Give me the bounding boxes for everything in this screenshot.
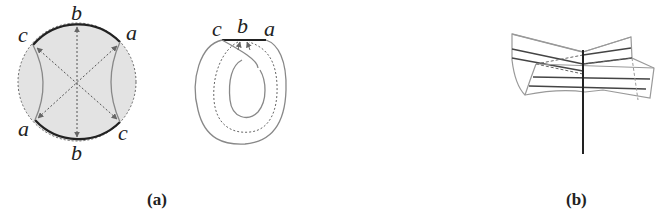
label-b-bottom: b xyxy=(71,140,82,165)
label-c-upper-left: c xyxy=(18,22,28,47)
caption-b: (b) xyxy=(566,190,587,209)
label-b-top: b xyxy=(71,0,82,25)
loop-diagram: c b a xyxy=(195,13,286,144)
label-c-lower-right: c xyxy=(118,120,128,145)
label-a-upper-right: a xyxy=(126,20,137,45)
label-a-lower-left: a xyxy=(18,116,29,141)
loop-label-a: a xyxy=(264,16,275,41)
caption-a: (a) xyxy=(147,190,167,209)
loop-label-c: c xyxy=(212,16,222,41)
figure: b b c a a c c b a (a) (b) xyxy=(0,0,664,224)
disk-diagram: b b c a a c xyxy=(18,0,137,165)
loop-label-b: b xyxy=(237,13,248,38)
surface-diagram xyxy=(512,34,654,154)
